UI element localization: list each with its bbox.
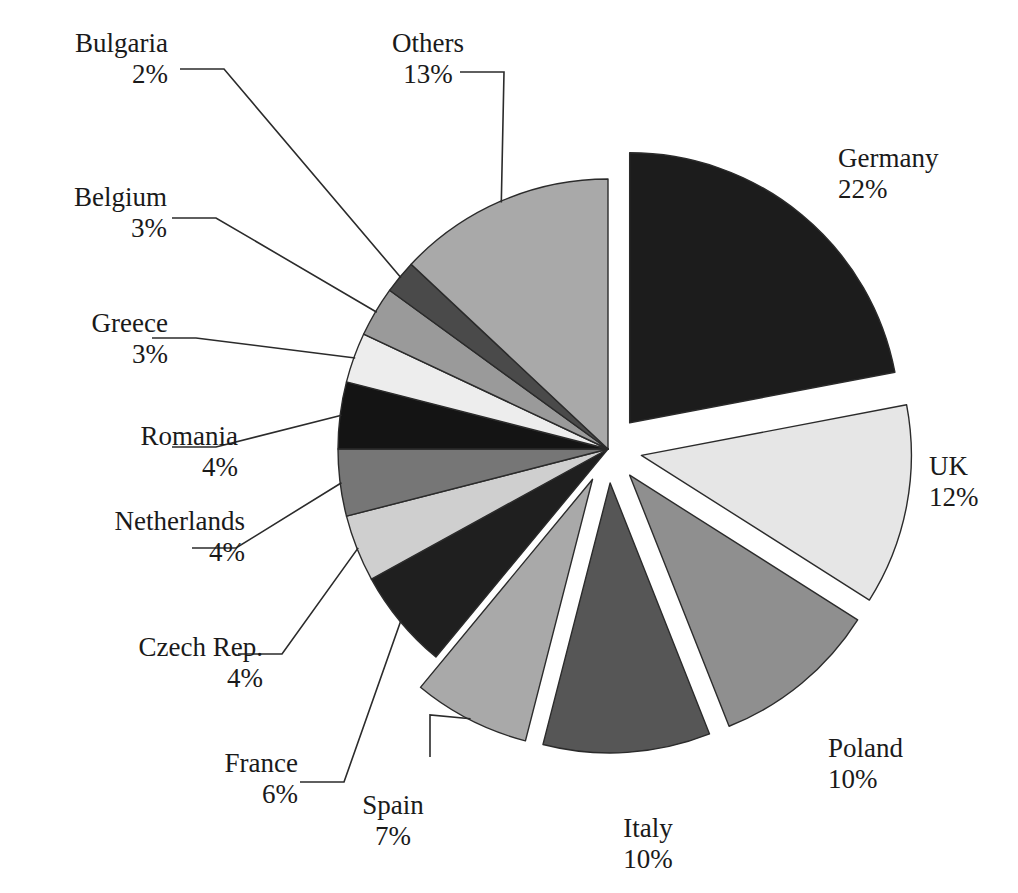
slice-label-belgium-pct: 3% [22,213,167,244]
slice-label-greece-pct: 3% [28,339,168,370]
slice-label-uk: UK 12% [929,451,979,512]
slice-label-germany-pct: 22% [838,174,938,205]
slice-label-germany-name: Germany [838,143,938,174]
slice-label-belgium-name: Belgium [22,182,167,213]
slice-label-bulgaria-name: Bulgaria [18,28,168,59]
slice-label-poland: Poland 10% [828,733,903,794]
slice-label-others-name: Others [363,28,493,59]
slice-label-greece-name: Greece [28,308,168,339]
leader-line-spain [430,715,471,757]
slice-label-spain-pct: 7% [333,821,453,852]
pie-chart: Germany 22% UK 12% Poland 10% Italy 10% … [0,0,1018,893]
slice-label-czech: Czech Rep. 4% [48,632,263,693]
slice-label-france-name: France [98,748,298,779]
slice-label-romania: Romania 4% [48,421,238,482]
slice-label-uk-pct: 12% [929,482,979,513]
slice-label-belgium: Belgium 3% [22,182,167,243]
slice-label-italy: Italy 10% [588,813,708,874]
slice-label-france-pct: 6% [98,779,298,810]
slice-label-others-pct: 13% [363,59,493,90]
slice-label-germany: Germany 22% [838,143,938,204]
slice-label-italy-name: Italy [588,813,708,844]
slice-label-czech-pct: 4% [48,663,263,694]
slice-label-poland-name: Poland [828,733,903,764]
slice-label-romania-name: Romania [48,421,238,452]
slice-label-romania-pct: 4% [48,452,238,483]
slice-label-netherlands-pct: 4% [15,537,245,568]
slice-label-uk-name: UK [929,451,979,482]
slice-label-poland-pct: 10% [828,764,903,795]
slice-label-bulgaria-pct: 2% [18,59,168,90]
slice-label-france: France 6% [98,748,298,809]
leader-line-others [460,72,504,202]
leader-line-bulgaria [180,69,401,278]
slice-label-others: Others 13% [363,28,493,89]
slice-label-netherlands: Netherlands 4% [15,506,245,567]
slice-label-czech-name: Czech Rep. [48,632,263,663]
leader-line-greece [152,338,355,358]
slice-label-italy-pct: 10% [588,844,708,875]
leader-line-belgium [172,218,377,312]
slice-label-greece: Greece 3% [28,308,168,369]
slice-label-bulgaria: Bulgaria 2% [18,28,168,89]
slice-label-netherlands-name: Netherlands [15,506,245,537]
leader-line-france [300,620,401,782]
slice-label-spain: Spain 7% [333,790,453,851]
pie-slices-group [338,153,911,753]
slice-label-spain-name: Spain [333,790,453,821]
